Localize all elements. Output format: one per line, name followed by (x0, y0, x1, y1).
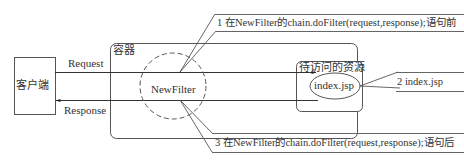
client-label: 客户端 (16, 79, 49, 92)
callout-2-label: 2 index.jsp (397, 75, 443, 88)
callout-3-label: 3 在NewFilter的chain.doFilter(request,resp… (215, 136, 454, 149)
resource-label: index.jsp (314, 79, 354, 92)
container-label: 容器 (113, 44, 135, 57)
filter-label: NewFilter (151, 83, 196, 96)
request-label: Request (68, 57, 103, 70)
resource-box-label: 待访问的资源 (299, 61, 365, 74)
callout-1-label: 1 在NewFilter的chain.doFilter(request,resp… (217, 16, 456, 29)
response-label: Response (64, 104, 106, 117)
